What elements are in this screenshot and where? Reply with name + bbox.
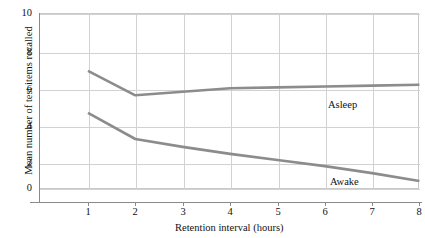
series-line-asleep <box>88 71 419 96</box>
y-axis-title: Mean number of test items recalled <box>23 16 34 186</box>
chart-container: 10 8 6 4 2 0 1 2 3 4 5 6 7 8 Mean number… <box>0 0 425 238</box>
x-axis-title: Retention interval (hours) <box>175 222 283 233</box>
x-tick-label-7: 7 <box>362 207 382 217</box>
x-tick-label-5: 5 <box>268 207 288 217</box>
series-label-asleep: Asleep <box>328 99 357 110</box>
x-tick-label-6: 6 <box>315 207 335 217</box>
x-tick-label-4: 4 <box>220 207 240 217</box>
x-tick-label-1: 1 <box>78 207 98 217</box>
x-tick-label-3: 3 <box>173 207 193 217</box>
x-tick-label-2: 2 <box>125 207 145 217</box>
series-label-awake: Awake <box>330 176 359 187</box>
x-tick-label-8: 8 <box>409 207 425 217</box>
y-axis-line <box>39 13 40 202</box>
series-line-awake <box>88 113 419 181</box>
